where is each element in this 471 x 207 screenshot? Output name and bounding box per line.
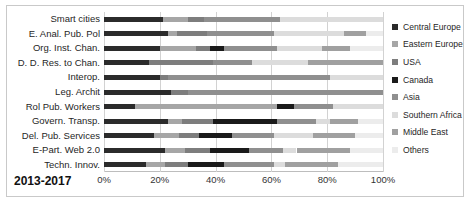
bar-segment[interactable] xyxy=(188,17,205,22)
bar-segment[interactable] xyxy=(322,46,350,51)
bar-segment[interactable] xyxy=(294,104,333,109)
category-label: E. Anal. Pub. Pol xyxy=(29,27,100,41)
bar-segment[interactable] xyxy=(344,31,366,36)
bar-segment[interactable] xyxy=(213,60,252,65)
bar-row[interactable] xyxy=(104,104,383,109)
bar-segment[interactable] xyxy=(104,17,163,22)
bar-segment[interactable] xyxy=(274,31,344,36)
bar-segment[interactable] xyxy=(104,133,154,138)
axis-tick-label: 80% xyxy=(318,174,337,185)
bar-segment[interactable] xyxy=(355,133,383,138)
bar-segment[interactable] xyxy=(207,31,274,36)
bar-row[interactable] xyxy=(104,148,383,153)
legend-item[interactable]: Others xyxy=(392,141,468,159)
value-axis-ticks: 0%20%40%60%80%100% xyxy=(104,174,383,190)
bar-segment[interactable] xyxy=(366,31,383,36)
bar-row[interactable] xyxy=(104,133,383,138)
bar-segment[interactable] xyxy=(160,75,168,80)
legend-item[interactable]: Asia xyxy=(392,88,468,106)
bar-segment[interactable] xyxy=(104,60,149,65)
bar-segment[interactable] xyxy=(104,162,146,167)
bar-segment[interactable] xyxy=(252,60,308,65)
bar-segment[interactable] xyxy=(179,133,199,138)
bar-segment[interactable] xyxy=(224,46,277,51)
bar-segment[interactable] xyxy=(280,17,383,22)
plot-area xyxy=(104,12,383,172)
bar-row[interactable] xyxy=(104,75,383,80)
bar-segment[interactable] xyxy=(350,46,383,51)
legend-item[interactable]: Eastern Europe xyxy=(392,36,468,54)
legend-swatch-icon xyxy=(392,24,398,30)
bar-segment[interactable] xyxy=(104,104,135,109)
bar-segment[interactable] xyxy=(358,119,383,124)
bar-segment[interactable] xyxy=(171,90,188,95)
axis-tick-label: 40% xyxy=(206,174,225,185)
bar-segment[interactable] xyxy=(104,31,168,36)
category-label: Govern. Transp. xyxy=(32,114,100,128)
bar-segment[interactable] xyxy=(330,119,358,124)
bar-row[interactable] xyxy=(104,31,383,36)
bar-segment[interactable] xyxy=(104,90,171,95)
bar-segment[interactable] xyxy=(308,60,383,65)
bar-segment[interactable] xyxy=(104,119,168,124)
bar-segment[interactable] xyxy=(285,162,338,167)
bar-segment[interactable] xyxy=(165,162,187,167)
bar-row[interactable] xyxy=(104,90,383,95)
bar-segment[interactable] xyxy=(350,148,383,153)
bar-segment[interactable] xyxy=(188,162,224,167)
bar-segment[interactable] xyxy=(177,31,208,36)
bar-segment[interactable] xyxy=(168,119,182,124)
bar-segment[interactable] xyxy=(313,133,355,138)
bar-segment[interactable] xyxy=(224,162,274,167)
bar-segment[interactable] xyxy=(146,162,166,167)
legend-item[interactable]: Southern Africa xyxy=(392,106,468,124)
legend-label: Middle East xyxy=(403,127,448,137)
bar-segment[interactable] xyxy=(104,148,165,153)
bar-row[interactable] xyxy=(104,119,383,124)
bar-segment[interactable] xyxy=(182,119,213,124)
bar-segment[interactable] xyxy=(210,148,249,153)
bar-segment[interactable] xyxy=(277,46,322,51)
bar-segment[interactable] xyxy=(104,46,160,51)
bar-segment[interactable] xyxy=(249,148,282,153)
bar-row[interactable] xyxy=(104,46,383,51)
bar-segment[interactable] xyxy=(160,46,196,51)
axis-baseline xyxy=(104,171,383,172)
bar-segment[interactable] xyxy=(274,162,285,167)
bar-segment[interactable] xyxy=(330,75,383,80)
bar-row[interactable] xyxy=(104,60,383,65)
bar-row[interactable] xyxy=(104,17,383,22)
bar-segment[interactable] xyxy=(297,148,350,153)
bar-segment[interactable] xyxy=(188,90,383,95)
bar-segment[interactable] xyxy=(338,162,383,167)
bar-segment[interactable] xyxy=(168,31,176,36)
bar-segment[interactable] xyxy=(333,104,383,109)
bar-segment[interactable] xyxy=(204,17,279,22)
bar-segment[interactable] xyxy=(104,75,160,80)
bar-segment[interactable] xyxy=(277,104,294,109)
bar-segment[interactable] xyxy=(199,133,232,138)
bar-segment[interactable] xyxy=(213,119,277,124)
bar-segment[interactable] xyxy=(154,133,179,138)
legend-item[interactable]: USA xyxy=(392,53,468,71)
legend-item[interactable]: Middle East xyxy=(392,124,468,142)
bar-segment[interactable] xyxy=(185,148,210,153)
category-label: Org. Inst. Chan. xyxy=(33,41,100,55)
bar-segment[interactable] xyxy=(283,148,297,153)
legend-swatch-icon xyxy=(392,77,398,83)
stacked-bar-chart: Smart citiesE. Anal. Pub. PolOrg. Inst. … xyxy=(0,0,471,207)
bar-segment[interactable] xyxy=(168,75,330,80)
bar-segment[interactable] xyxy=(163,17,188,22)
bar-segment[interactable] xyxy=(232,133,274,138)
bar-segment[interactable] xyxy=(210,46,224,51)
legend-item[interactable]: Central Europe xyxy=(392,18,468,36)
bar-segment[interactable] xyxy=(149,60,213,65)
bar-segment[interactable] xyxy=(274,133,313,138)
bar-row[interactable] xyxy=(104,162,383,167)
bar-segment[interactable] xyxy=(165,148,185,153)
legend-item[interactable]: Canada xyxy=(392,71,468,89)
bar-segment[interactable] xyxy=(277,119,316,124)
bar-segment[interactable] xyxy=(135,104,277,109)
bar-segment[interactable] xyxy=(196,46,210,51)
bar-segment[interactable] xyxy=(316,119,330,124)
